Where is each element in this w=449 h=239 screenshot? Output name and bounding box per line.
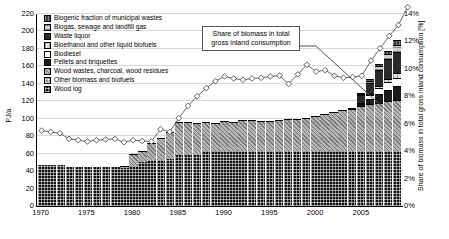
line-marker: [94, 137, 100, 143]
legend-item: Biogas, sewage and landfill gas: [44, 23, 168, 32]
callout-annotation: Share of biomass in total gross inland c…: [202, 26, 300, 51]
chart-root: 020406080100120140160180200220 PJ/a 0%2%…: [0, 0, 449, 239]
legend-item-label: Waste liquor: [54, 32, 90, 41]
y-axis-left-tick: 180: [6, 44, 34, 53]
x-axis-tick: 2005: [352, 208, 369, 217]
legend-item: Pellets and briquettes: [44, 58, 168, 67]
x-axis-tick: 1990: [215, 208, 232, 217]
legend-swatch-icon: [44, 86, 51, 93]
legend-swatch-icon: [44, 77, 51, 84]
y-axis-right-tick: 14%: [404, 9, 432, 18]
line-marker: [121, 139, 127, 145]
x-axis-tick: 1980: [124, 208, 141, 217]
legend-item: Biogenic fraction of municipal wastes: [44, 14, 168, 23]
line-marker: [249, 76, 255, 82]
legend-swatch-icon: [44, 33, 51, 40]
legend-item-label: Wood log: [54, 85, 82, 94]
x-axis-tick: 1985: [169, 208, 186, 217]
line-marker: [103, 137, 109, 143]
legend-item: Waste liquor: [44, 32, 168, 41]
y-axis-right-title: Share of biomass in total gross inland c…: [417, 41, 425, 191]
line-marker: [167, 129, 173, 135]
chart-legend: Biogenic fraction of municipal wastesBio…: [44, 14, 168, 94]
line-marker: [112, 136, 118, 142]
legend-item: Other biomass and biofuels: [44, 76, 168, 85]
legend-item-label: Biogenic fraction of municipal wastes: [54, 14, 162, 23]
line-marker: [130, 137, 136, 143]
line-marker: [240, 77, 246, 83]
line-marker: [341, 75, 347, 81]
y-axis-left-tick: 60: [6, 149, 34, 158]
line-marker: [231, 76, 237, 82]
y-axis-left-tick: 40: [6, 166, 34, 175]
legend-item-label: Pellets and briquettes: [54, 58, 117, 67]
legend-item: Bioethanol and other liquid biofuels: [44, 41, 168, 50]
y-axis-left-tick: 0: [6, 201, 34, 210]
y-axis-left-tick: 200: [6, 26, 34, 35]
x-axis-tick: 2000: [307, 208, 324, 217]
line-marker: [48, 129, 54, 135]
legend-item-label: Wood wastes, charcoal, wood residues: [54, 67, 168, 76]
legend-swatch-icon: [44, 42, 51, 49]
line-marker: [84, 139, 90, 145]
x-axis-tick: 1995: [261, 208, 278, 217]
y-axis-left-title: PJ/a: [5, 96, 12, 136]
y-axis-left-tick: 220: [6, 9, 34, 18]
line-marker: [258, 75, 264, 81]
line-marker: [322, 67, 328, 73]
legend-item: Wood log: [44, 85, 168, 94]
line-marker: [359, 73, 365, 79]
line-marker: [267, 74, 273, 80]
y-axis-right-tick: 0%: [404, 201, 432, 210]
legend-item-label: Biodiesel: [54, 50, 81, 59]
legend-swatch-icon: [44, 24, 51, 31]
legend-swatch-icon: [44, 59, 51, 66]
line-marker: [222, 74, 228, 80]
legend-swatch-icon: [44, 68, 51, 75]
line-marker: [350, 74, 356, 80]
legend-item-label: Biogas, sewage and landfill gas: [54, 23, 146, 32]
line-marker: [332, 73, 338, 79]
y-axis-left-tick: 20: [6, 184, 34, 193]
legend-item: Biodiesel: [44, 50, 168, 59]
legend-item-label: Other biomass and biofuels: [54, 76, 134, 85]
line-marker: [66, 136, 72, 142]
x-axis-tick: 1975: [78, 208, 95, 217]
line-marker: [75, 137, 81, 143]
line-marker: [39, 128, 45, 134]
legend-swatch-icon: [44, 15, 51, 22]
x-axis: 19701975198019851990199520002005: [36, 208, 402, 224]
y-axis-left-tick: 160: [6, 61, 34, 70]
line-marker: [139, 138, 145, 144]
legend-swatch-icon: [44, 51, 51, 58]
legend-item-label: Bioethanol and other liquid biofuels: [54, 41, 157, 50]
line-marker: [57, 130, 63, 136]
y-axis-left-tick: 140: [6, 79, 34, 88]
legend-item: Wood wastes, charcoal, wood residues: [44, 67, 168, 76]
x-axis-tick: 1970: [32, 208, 49, 217]
